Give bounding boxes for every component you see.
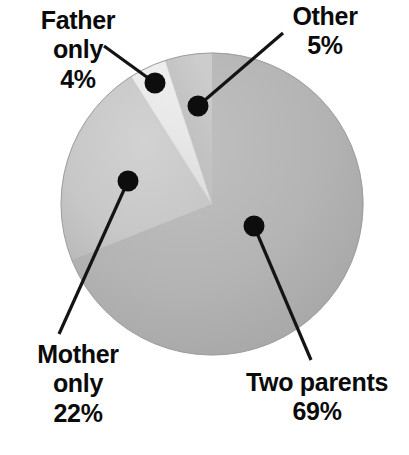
pie-chart: Father only 4% Other 5% Mother only 22% … <box>0 0 409 455</box>
pie-label-mother-only-line2: only <box>2 369 154 398</box>
pie-label-mother-only-line1: Mother <box>2 340 154 369</box>
pie-label-mother-only-value: 22% <box>2 399 154 428</box>
pie-label-two-parents-value: 69% <box>227 397 407 426</box>
callout-dot-other <box>188 96 209 117</box>
pie-label-father-only-line1: Father <box>6 6 150 35</box>
pie-label-father-only-line2: only <box>6 35 150 64</box>
pie-label-father-only-value: 4% <box>6 65 150 94</box>
pie-label-other-value: 5% <box>265 31 385 60</box>
pie-label-mother-only: Mother only 22% <box>2 340 154 428</box>
callout-dot-mother-only <box>118 171 139 192</box>
callout-dot-two-parents <box>244 216 265 237</box>
pie-label-other-line1: Other <box>265 2 385 31</box>
pie-label-two-parents: Two parents 69% <box>227 368 407 427</box>
pie-label-other: Other 5% <box>265 2 385 61</box>
pie-label-father-only: Father only 4% <box>6 6 150 94</box>
pie-label-two-parents-line1: Two parents <box>227 368 407 397</box>
